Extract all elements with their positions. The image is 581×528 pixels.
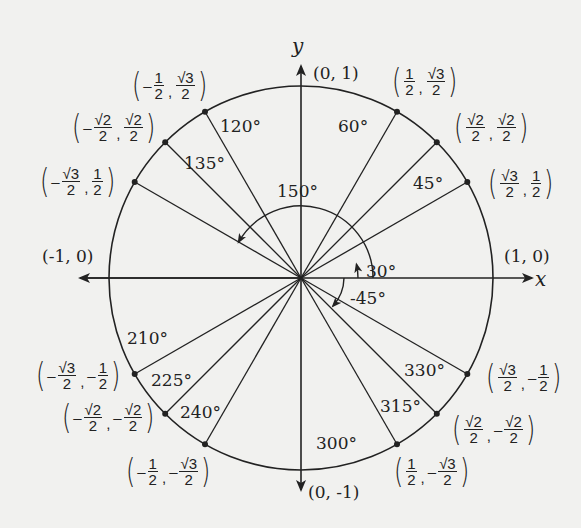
coord-30: ( √32 , 12 ) — [486, 166, 556, 200]
angle-label-210: 210° — [127, 330, 168, 347]
coord-330: ( √32 , – 12 ) — [484, 360, 563, 394]
angle-label-45: 45° — [413, 175, 443, 192]
arc-30 — [357, 265, 359, 279]
point-label-1-0: (1, 0) — [504, 248, 550, 265]
angle-label-315: 315° — [380, 398, 421, 415]
point-label-0-neg1: (0, -1) — [308, 484, 359, 501]
angle-label-225: 225° — [151, 372, 192, 389]
angle-label-150: 150° — [277, 183, 318, 200]
coord-60: ( 12 , √32 ) — [390, 64, 460, 98]
coord-210: ( – √32 , – 12 ) — [34, 358, 122, 392]
point-label-neg1-0: (-1, 0) — [42, 248, 93, 265]
angle-label-330: 330° — [404, 362, 445, 379]
angle-label-240: 240° — [180, 404, 221, 421]
coord-45: ( √22 , √22 ) — [452, 110, 530, 144]
angle-label-300: 300° — [316, 435, 357, 452]
coord-300: ( 12 , – √32 ) — [392, 454, 471, 488]
coord-240: ( – 12 , – √32 ) — [124, 454, 212, 488]
arc-150 — [239, 206, 373, 278]
coord-150: ( – √32 , 12 ) — [38, 164, 117, 198]
angle-label-30: 30° — [366, 263, 396, 280]
coord-120: ( – 12 , √32 ) — [130, 68, 209, 102]
coord-315: ( √22 , – √22 ) — [450, 412, 537, 446]
angle-label-neg45: -45° — [350, 290, 386, 307]
x-axis-label: x — [535, 269, 546, 289]
angle-label-120: 120° — [220, 118, 261, 135]
y-axis-label: y — [292, 36, 303, 56]
angle-label-135: 135° — [184, 155, 225, 172]
point-label-0-1: (0, 1) — [313, 65, 359, 82]
unit-circle-diagram: y x (0, 1) (1, 0) (-1, 0) (0, -1) 30° 45… — [0, 0, 581, 528]
angle-label-60: 60° — [338, 118, 368, 135]
coord-135: ( – √22 , √22 ) — [70, 110, 157, 144]
coord-225: ( – √22 , – √22 ) — [60, 400, 157, 434]
